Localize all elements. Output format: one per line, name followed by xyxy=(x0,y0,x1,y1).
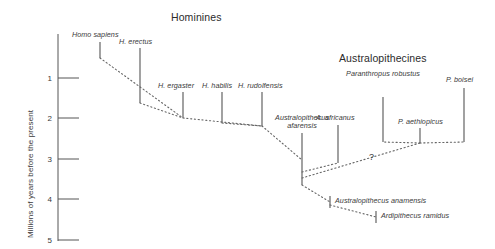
lineage-rudolfensis-to-afarensis xyxy=(262,126,302,160)
lineage-aethiopicus-to-boisei xyxy=(420,142,464,143)
taxon-label-h-ergaster: H. ergaster xyxy=(158,82,194,90)
lineage-afarensis-to-anamensis xyxy=(302,185,330,202)
taxon-label-p-aethiopicus: P. aethiopicus xyxy=(398,118,443,126)
group-title-hominines: Hominines xyxy=(171,11,222,23)
lineage-anamensis-to-ramidus xyxy=(330,205,376,217)
taxon-label-p-boisei: P. boisei xyxy=(446,76,473,84)
hominin-phylogeny-figure: 1 2 3 4 5 Millions of years before the p… xyxy=(0,0,495,249)
taxon-label-australopithecus-anamensis: Australopithecus anamensis xyxy=(335,197,426,205)
lineage-erectus-to-ergaster xyxy=(140,103,183,118)
taxon-label-h-habilis: H. habilis xyxy=(202,82,232,90)
lineage-habilis-to-rudolfensis xyxy=(222,123,262,126)
taxon-label-a-africanus: A. africanus xyxy=(316,114,355,122)
time-axis xyxy=(58,34,79,241)
taxon-label-h-erectus: H. erectus xyxy=(119,38,152,46)
lineage-afarensis-to-aethiopicus-uncertain xyxy=(302,143,420,178)
axis-tick-label-3: 3 xyxy=(40,155,52,164)
taxon-label-ardipithecus-ramidus: Ardipithecus ramidus xyxy=(381,212,449,220)
axis-title: Millions of years before the present xyxy=(26,110,35,238)
axis-tick-label-4: 4 xyxy=(40,195,52,204)
axis-tick-label-2: 2 xyxy=(40,114,52,123)
lineage-afarensis-to-africanus xyxy=(302,163,338,172)
group-title-australopithecines: Australopithecines xyxy=(339,52,427,64)
taxon-label-h-rudolfensis: H. rudolfensis xyxy=(238,82,283,90)
axis-tick-label-1: 1 xyxy=(40,74,52,83)
lineage-aethiopicus-to-robustus xyxy=(383,142,420,143)
axis-tick-label-5: 5 xyxy=(40,236,52,245)
taxon-label-paranthropus-robustus: Paranthropus robustus xyxy=(341,70,425,78)
uncertain-relationship-marker: ? xyxy=(369,152,374,162)
taxon-label-homo-sapiens: Homo sapiens xyxy=(72,31,119,39)
